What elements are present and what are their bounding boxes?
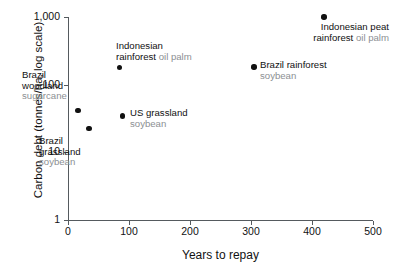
data-point-brazil-rainforest [251,64,256,69]
y-tick-label-1: 1 [18,214,60,225]
data-point-brazil-grassland [86,126,91,131]
annotation-indonesian-peat-line2: rainforest [313,32,353,43]
data-point-indonesian-rainforest [117,65,122,70]
annotation-indonesian-peat-crop: oil palm [356,32,389,43]
annotation-indonesian-peat: Indonesian peat rainforest oil palm [153,22,389,43]
x-tick-label-300: 300 [231,226,271,237]
annotation-brazil-woodland: Brazil woodland sugarcane [22,70,67,102]
annotation-brazil-grassland-crop: soybean [39,157,81,168]
annotation-us-grassland: US grassland soybean [130,108,188,129]
annotation-brazil-woodland-line1: Brazil [22,70,67,81]
annotation-brazil-grassland: Brazil grassland soybean [39,136,81,168]
annotation-indonesian-rainforest: Indonesian rainforest oil palm [116,41,192,62]
x-axis-line [68,220,373,221]
annotation-indonesian-peat-line2row: rainforest oil palm [153,33,389,44]
y-axis-label: Carbon debt (tonnes/ha, log scale) [32,10,44,210]
annotation-indonesian-rainforest-line2row: rainforest oil palm [116,52,192,63]
annotation-us-grassland-crop: soybean [130,119,188,130]
annotation-us-grassland-line1: US grassland [130,108,188,119]
data-point-indonesian-peat [321,14,326,19]
x-tick-label-500: 500 [353,226,393,237]
annotation-indonesian-peat-line1: Indonesian peat [153,22,389,33]
x-axis-label: Years to repay [68,248,373,262]
annotation-brazil-grassland-line1: Brazil [39,136,81,147]
annotation-indonesian-rainforest-line2: rainforest [116,51,156,62]
y-axis-line [68,17,69,221]
x-tick-label-400: 400 [292,226,332,237]
data-point-brazil-woodland [75,108,80,113]
annotation-brazil-rainforest-line1: Brazil rainforest [260,60,327,71]
data-point-us-grassland [120,113,125,118]
annotation-brazil-rainforest: Brazil rainforest soybean [260,60,327,81]
x-tick-label-200: 200 [170,226,210,237]
scatter-chart: 1,000 100 10 1 0 100 200 300 400 500 Car… [0,0,393,276]
annotation-brazil-rainforest-crop: soybean [260,71,327,82]
annotation-indonesian-rainforest-crop: oil palm [159,51,192,62]
x-tick-label-100: 100 [109,226,149,237]
x-tick-label-0: 0 [48,226,88,237]
y-tick-1000 [64,17,68,18]
annotation-brazil-woodland-crop: sugarcane [22,91,67,102]
